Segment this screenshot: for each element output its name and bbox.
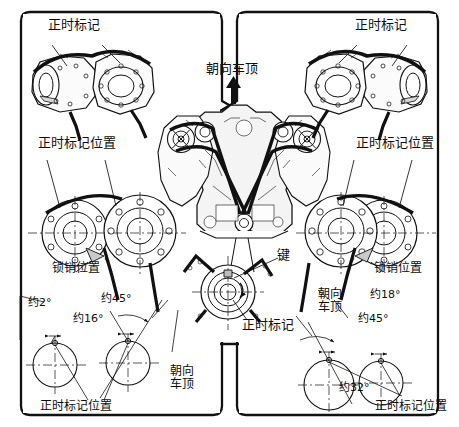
right-timing-mark-label: 正时标记 xyxy=(355,18,407,31)
left-timing-mark-label: 正时标记 xyxy=(48,18,100,31)
right-angle-18-label: 约18° xyxy=(370,289,401,300)
bottom-center-timing-mark-label: 正时标记 xyxy=(242,318,294,331)
right-lock-pin-position-label: 锁销位置 xyxy=(374,262,422,274)
left-timing-mark-position-top-label: 正时标记位置 xyxy=(38,136,116,149)
left-angle-16-label: 约16° xyxy=(73,313,104,324)
right-timing-mark-position-bottom-label: 正时标记位置 xyxy=(375,400,447,412)
diagram-canvas: 正时标记 正时标记位置 锁销位置 约2° 约45° 约16° 朝向 车顶 正时标… xyxy=(0,0,459,427)
left-timing-mark-position-bottom-label: 正时标记位置 xyxy=(40,400,112,412)
right-timing-mark-position-top-label: 正时标记位置 xyxy=(356,136,434,149)
toward-roof-arrow-center xyxy=(226,76,241,104)
left-toward-roof-label: 朝向 车顶 xyxy=(170,365,194,392)
left-lock-pin-position-label: 锁销位置 xyxy=(52,262,100,274)
right-angle-32-label: 约32° xyxy=(339,382,370,393)
left-angle-2-label: 约2° xyxy=(28,297,52,308)
key-label: 键 xyxy=(277,248,290,261)
right-angle-45-label: 约45° xyxy=(358,313,389,324)
right-toward-roof-label: 朝向 车顶 xyxy=(318,288,342,315)
left-angle-45-label: 约45° xyxy=(101,293,132,304)
center-toward-roof-label: 朝向车顶 xyxy=(206,62,258,75)
